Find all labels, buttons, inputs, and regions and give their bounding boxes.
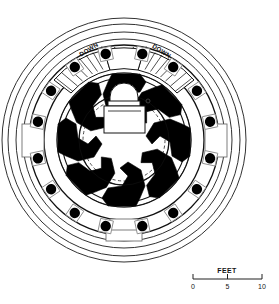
fourth-circle [23, 39, 225, 241]
scale-bar-title: FEET [217, 267, 237, 274]
doorway-south-inner [110, 219, 138, 230]
scale-label-5: 5 [226, 283, 230, 290]
column [42, 180, 60, 198]
altar-upper-band [108, 101, 140, 106]
column [30, 114, 45, 129]
column [188, 180, 206, 198]
column [30, 151, 45, 166]
scale-bar: FEET 0 5 10 [191, 267, 266, 290]
column [66, 204, 84, 222]
column [188, 82, 206, 100]
column [98, 218, 113, 233]
column [202, 151, 217, 166]
column [202, 114, 217, 129]
altar-base-block [104, 106, 145, 133]
plan-canvas: DOWN DOWN [0, 0, 279, 304]
column [135, 218, 150, 233]
scale-label-0: 0 [191, 283, 195, 290]
column [164, 204, 182, 222]
column [42, 82, 60, 100]
column [135, 46, 150, 61]
scale-label-10: 10 [258, 283, 266, 290]
floor-plan-drawing: DOWN DOWN [0, 0, 279, 304]
column [98, 46, 113, 61]
